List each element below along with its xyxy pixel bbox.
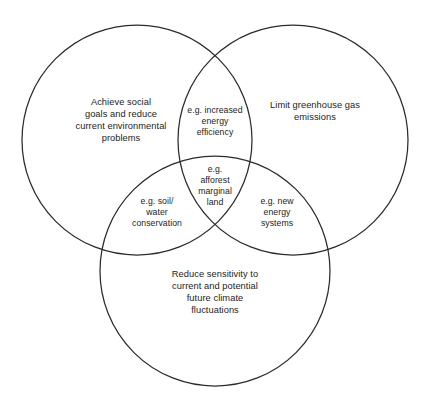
venn-label-intersection-top-lens: e.g. increased energy efficiency: [172, 105, 258, 138]
venn-label-intersection-right-lens: e.g. new energy systems: [240, 196, 314, 229]
venn-label-greenhouse-gas: Limit greenhouse gas emissions: [246, 100, 384, 124]
venn-label-intersection-left-lens: e.g. soil/ water conservation: [114, 196, 200, 229]
venn-diagram: Achieve social goals and reduce current …: [0, 0, 429, 405]
venn-label-climate-sensitivity: Reduce sensitivity to current and potent…: [135, 269, 295, 317]
